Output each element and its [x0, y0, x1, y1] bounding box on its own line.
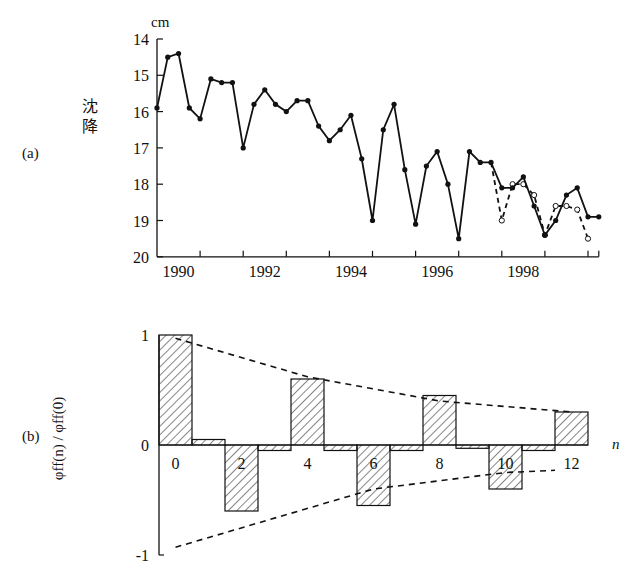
bar-n9 [456, 445, 489, 448]
x-tick-label: 12 [564, 455, 580, 472]
bar-n1 [192, 440, 225, 446]
x-tick-label: 8 [436, 455, 444, 472]
y-tick-label: 1 [141, 327, 149, 344]
bar-n7 [390, 445, 423, 451]
bar-n12 [555, 412, 588, 445]
upper-envelope [176, 338, 572, 412]
x-tick-label: 2 [238, 455, 246, 472]
bar-n0 [159, 335, 192, 445]
bar-n5 [324, 445, 357, 451]
bar-n4 [291, 379, 324, 445]
bar-n3 [258, 445, 291, 451]
bar-n8 [423, 396, 456, 446]
x-tick-label: 6 [370, 455, 378, 472]
y-tick-label: 0 [141, 437, 149, 454]
y-tick-label: -1 [136, 547, 149, 564]
autocorrelation-bar-chart: -101024681012 [0, 0, 634, 579]
bar-n11 [522, 445, 555, 451]
x-tick-label: 4 [304, 455, 312, 472]
x-tick-label: 0 [172, 455, 180, 472]
x-tick-label: 10 [498, 455, 514, 472]
